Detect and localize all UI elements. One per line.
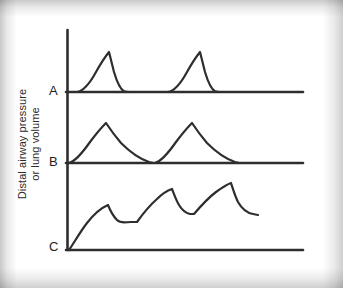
waveform-plot (0, 0, 343, 288)
waveform-c-breath-stacking (69, 183, 258, 250)
waveform-a-breath-2 (168, 52, 219, 92)
waveform-b-breath-2 (155, 123, 239, 163)
figure-container: Distal airway pressure or lung volume A … (0, 0, 343, 288)
waveform-b-breath-1 (69, 123, 153, 163)
waveform-a-breath-1 (77, 52, 128, 92)
